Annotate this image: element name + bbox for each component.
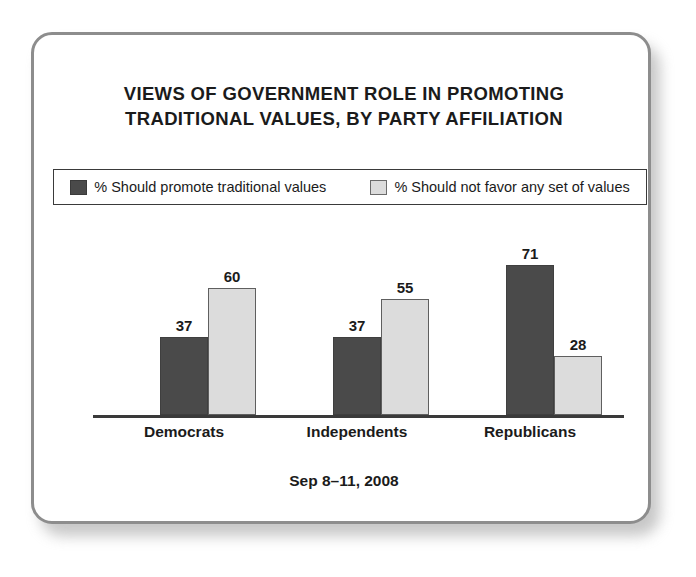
- chart-title-line-1: VIEWS OF GOVERNMENT ROLE IN PROMOTING: [124, 83, 565, 104]
- x-axis-line: [93, 415, 624, 418]
- category-label-democrats: Democrats: [104, 423, 264, 441]
- legend-swatch-dark-icon: [70, 180, 87, 195]
- bar-republicans-not-favor: 28: [554, 356, 602, 415]
- page-title: VIEWS OF GOVERNMENT ROLE IN PROMOTING TR…: [34, 81, 654, 131]
- legend-item-not-favor: % Should not favor any set of values: [370, 179, 629, 195]
- bar-democrats-promote: 37: [160, 337, 208, 415]
- bar-independents-not-favor: 55: [381, 299, 429, 415]
- legend-label-promote: % Should promote traditional values: [94, 179, 326, 195]
- bar-value-independents-promote: 37: [349, 317, 366, 334]
- category-label-independents: Independents: [277, 423, 437, 441]
- chart-legend: % Should promote traditional values % Sh…: [53, 169, 647, 205]
- chart-plot-area: 37 60 37 55 71 28: [34, 221, 654, 421]
- chart-footer-date: Sep 8–11, 2008: [34, 472, 654, 490]
- category-label-republicans: Republicans: [450, 423, 610, 441]
- chart-figure-frame: VIEWS OF GOVERNMENT ROLE IN PROMOTING TR…: [31, 32, 651, 524]
- x-axis-tick-labels: Democrats Independents Republicans: [34, 423, 654, 449]
- bar-value-democrats-not-favor: 60: [224, 268, 241, 285]
- legend-swatch-light-icon: [370, 180, 387, 195]
- bar-independents-promote: 37: [333, 337, 381, 415]
- chart-title-line-2: TRADITIONAL VALUES, BY PARTY AFFILIATION: [34, 106, 654, 131]
- bar-value-democrats-promote: 37: [176, 317, 193, 334]
- bar-value-republicans-not-favor: 28: [570, 336, 587, 353]
- bar-republicans-promote: 71: [506, 265, 554, 415]
- bar-value-independents-not-favor: 55: [397, 279, 414, 296]
- legend-label-not-favor: % Should not favor any set of values: [394, 179, 629, 195]
- bar-value-republicans-promote: 71: [522, 245, 539, 262]
- bar-democrats-not-favor: 60: [208, 288, 256, 415]
- legend-item-promote: % Should promote traditional values: [70, 179, 326, 195]
